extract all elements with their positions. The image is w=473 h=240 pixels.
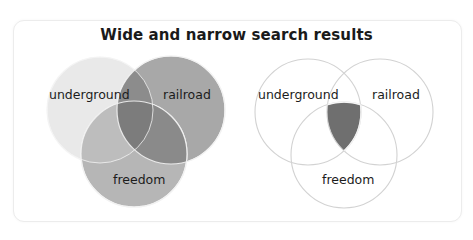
wide-label-freedom: freedom — [113, 172, 165, 187]
narrow-venn-diagram: underground railroad freedom — [255, 59, 433, 208]
narrow-label-freedom: freedom — [322, 172, 374, 187]
narrow-label-railroad: railroad — [372, 87, 420, 102]
narrow-label-underground: underground — [258, 87, 339, 102]
venn-diagrams: underground railroad freedom underground… — [0, 0, 473, 240]
wide-venn-diagram: underground railroad freedom — [47, 56, 225, 207]
wide-label-railroad: railroad — [163, 87, 211, 102]
wide-label-underground: underground — [49, 87, 130, 102]
